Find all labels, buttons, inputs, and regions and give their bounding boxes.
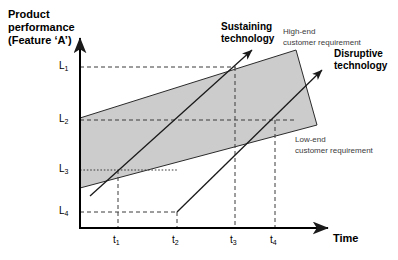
high-end-requirement-label-line1: High-end [283, 27, 315, 36]
y-tick-L1: L1 [59, 60, 68, 73]
disruptive-technology-label-line2: technology [334, 60, 387, 72]
y-axis-title-line3: (Feature ‘A’) [8, 34, 72, 47]
y-tick-L4: L4 [59, 205, 68, 218]
y-tick-L4-sub: 4 [65, 210, 69, 217]
y-tick-L2-sub: 2 [65, 118, 69, 125]
x-tick-t1-sub: 1 [116, 239, 120, 246]
sustaining-technology-label-line2: technology [221, 33, 274, 45]
y-tick-L3-sub: 3 [65, 168, 69, 175]
y-tick-L3: L3 [59, 163, 68, 176]
x-tick-t4-sub: 4 [273, 239, 277, 246]
low-end-requirement-label-line2: customer requirement [295, 146, 373, 155]
y-tick-L2: L2 [59, 113, 68, 126]
performance-requirement-band [80, 50, 317, 188]
x-tick-t4: t4 [270, 234, 277, 247]
high-end-requirement-label-line2: customer requirement [283, 38, 361, 47]
x-tick-t3-sub: 3 [233, 239, 237, 246]
y-tick-L1-sub: 1 [65, 65, 69, 72]
sustaining-technology-label-line1: Sustaining [221, 21, 272, 33]
disruptive-technology-label-line1: Disruptive [334, 48, 383, 60]
figure-canvas: Product performance (Feature ‘A’) L1 L2 … [0, 0, 398, 260]
low-end-requirement-label-line1: Low-end [295, 135, 326, 144]
y-axis-title-line1: Product [8, 8, 50, 21]
x-tick-t3: t3 [230, 234, 237, 247]
y-axis-title-line2: performance [8, 21, 75, 34]
x-tick-t2: t2 [172, 234, 179, 247]
x-tick-t2-sub: 2 [175, 239, 179, 246]
x-tick-t1: t1 [113, 234, 120, 247]
x-axis-title: Time [333, 232, 358, 245]
